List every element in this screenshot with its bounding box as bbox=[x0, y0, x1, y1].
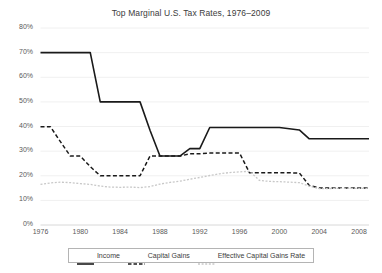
series-line-capital-gains bbox=[41, 127, 370, 188]
x-tick-label: 1984 bbox=[100, 228, 140, 235]
x-tick-label: 1980 bbox=[60, 228, 100, 235]
y-tick-label: 40% bbox=[3, 122, 33, 129]
legend-label: Income bbox=[97, 252, 120, 259]
y-tick-label: 20% bbox=[3, 171, 33, 178]
y-tick-label: 80% bbox=[3, 23, 33, 30]
series-line-effective-capital-gains-rate bbox=[41, 171, 370, 188]
series-line-income bbox=[41, 53, 370, 156]
chart-legend: IncomeCapital GainsEffective Capital Gai… bbox=[68, 248, 314, 263]
y-tick-label: 70% bbox=[3, 48, 33, 55]
legend-item[interactable]: Income bbox=[77, 252, 120, 259]
x-tick-label: 2008 bbox=[339, 228, 379, 235]
y-tick-label: 30% bbox=[3, 146, 33, 153]
legend-item[interactable]: Capital Gains bbox=[128, 252, 190, 259]
series-lines bbox=[41, 53, 370, 189]
legend-label: Effective Capital Gains Rate bbox=[218, 252, 305, 259]
y-tick-label: 60% bbox=[3, 72, 33, 79]
x-tick-label: 1988 bbox=[140, 228, 180, 235]
dashed-line-swatch bbox=[128, 253, 145, 259]
legend-label: Capital Gains bbox=[148, 252, 190, 259]
x-tick-label: 1992 bbox=[180, 228, 220, 235]
x-tick-label: 1976 bbox=[21, 228, 61, 235]
gridlines bbox=[41, 28, 370, 225]
y-tick-label: 10% bbox=[3, 195, 33, 202]
x-tick-label: 2000 bbox=[259, 228, 299, 235]
dotted-line-swatch bbox=[198, 253, 215, 259]
solid-line-swatch bbox=[77, 253, 94, 259]
y-tick-label: 0% bbox=[3, 220, 33, 227]
x-tick-label: 2004 bbox=[299, 228, 339, 235]
tax-rates-line-chart: Top Marginal U.S. Tax Rates, 1976–2009 0… bbox=[0, 0, 382, 273]
legend-item[interactable]: Effective Capital Gains Rate bbox=[198, 252, 305, 259]
x-tick-label: 1996 bbox=[220, 228, 260, 235]
y-tick-label: 50% bbox=[3, 97, 33, 104]
